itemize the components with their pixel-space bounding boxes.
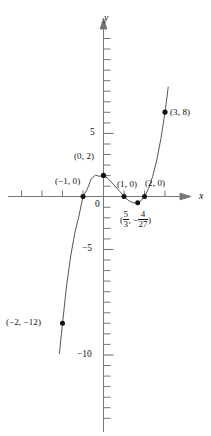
graph-canvas	[0, 0, 211, 436]
point-0-2	[101, 173, 106, 178]
point-label-neg2-neg12: (−2, −12)	[6, 318, 41, 327]
point-3-8	[162, 110, 167, 115]
origin-label: 0	[95, 200, 100, 210]
graph-figure: y x 0 5 −5 −10 (−2, −12) (−1, 0) (0, 2) …	[0, 0, 211, 436]
cubic-curve	[59, 87, 168, 353]
y-tick-label-neg10: −10	[77, 350, 92, 360]
point-label-minimum: (53, −427)	[120, 210, 151, 229]
min-label-separator: , −	[129, 215, 139, 225]
point-label-neg1-0: (−1, 0)	[55, 177, 80, 186]
x-axis-label: x	[199, 191, 203, 201]
point-label-3-8: (3, 8)	[170, 108, 190, 117]
point-neg2-neg12	[60, 321, 65, 326]
y-axis-ticks	[104, 39, 114, 419]
point-label-0-2: (0, 2)	[74, 152, 94, 161]
point-neg1-0	[81, 194, 86, 199]
point-2-0	[142, 194, 147, 199]
min-label-close-paren: )	[148, 215, 151, 225]
marked-points	[60, 110, 168, 326]
point-label-2-0: (2, 0)	[145, 179, 165, 188]
y-tick-label-5: 5	[90, 128, 95, 138]
y-axis	[100, 18, 107, 432]
point-1-0	[122, 194, 127, 199]
min-label-y-fraction: 427	[138, 210, 148, 229]
point-label-1-0: (1, 0)	[117, 180, 137, 189]
point-minimum	[135, 200, 140, 205]
min-label-y-denominator: 27	[138, 220, 148, 229]
y-axis-label: y	[104, 13, 108, 23]
y-tick-label-neg5: −5	[82, 244, 92, 254]
